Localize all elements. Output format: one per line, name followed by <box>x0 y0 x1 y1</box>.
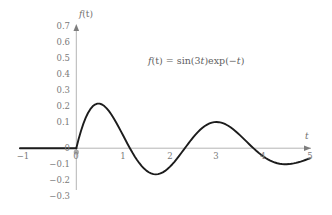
x-tick-label--1: −1 <box>10 152 36 161</box>
x-axis-label: t <box>305 132 309 141</box>
y-tick-label-0.3: 0.3 <box>46 86 70 95</box>
y-tick-label-0.4: 0.4 <box>46 70 70 79</box>
equation-equals: = <box>163 55 177 66</box>
equation-arg: (t) <box>152 55 163 66</box>
y-tick-label-0.6: 0.6 <box>46 38 70 47</box>
x-tick-label-1: 1 <box>111 152 135 161</box>
y-tick-label--0.2: −0.2 <box>42 176 70 185</box>
function-plot-figure: 0.7 0.6 0.5 0.4 0.3 0.2 0.1 0 −0.1 −0.2 … <box>0 0 332 215</box>
x-tick-label-4: 4 <box>251 152 275 161</box>
y-axis <box>74 24 80 190</box>
equation-close: ) <box>241 55 245 66</box>
y-tick-label-0.2: 0.2 <box>46 102 70 111</box>
y-tick-label-0.5: 0.5 <box>46 54 70 63</box>
equation-annotation: f(t) = sin(3t)exp(−t) <box>148 56 244 66</box>
x-tick-label-5: 5 <box>298 152 322 161</box>
x-tick-label-2: 2 <box>158 152 182 161</box>
x-tick-label-0: 0 <box>64 152 88 161</box>
y-tick-label-0.1: 0.1 <box>46 118 70 127</box>
y-axis-label-arg: (t) <box>82 9 93 19</box>
y-axis-label: f(t) <box>79 10 93 19</box>
y-tick-label--0.1: −0.1 <box>42 160 70 169</box>
equation-exp: )exp(− <box>204 55 236 66</box>
x-tick-label-3: 3 <box>204 152 228 161</box>
y-tick-label-0.7: 0.7 <box>46 22 70 31</box>
equation-sin: sin(3 <box>177 55 201 66</box>
y-tick-label--0.3: −0.3 <box>42 192 70 201</box>
